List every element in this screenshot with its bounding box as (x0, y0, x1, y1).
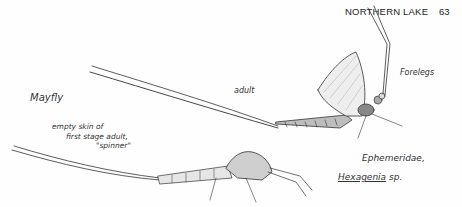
label-empty-skin-line-1: empty skin of (52, 122, 131, 132)
figure-title-mayfly: Mayfly (30, 92, 63, 103)
label-adult: adult (234, 86, 254, 95)
genus-name: Hexagenia (338, 172, 386, 182)
book-page: NORTHERN LAKE 63 (0, 0, 462, 207)
label-empty-skin-line-2: first stage adult, (66, 132, 131, 142)
label-empty-skin-line-3: "spinner" (96, 141, 131, 151)
label-empty-skin: empty skin of first stage adult, "spinne… (52, 122, 131, 151)
adult-mayfly-drawing (90, 6, 402, 138)
label-family: Ephemeridae, (362, 153, 425, 163)
species-abbr: sp. (389, 172, 402, 182)
label-forelegs: Forelegs (400, 68, 434, 77)
spinner-skin-drawing (12, 146, 312, 202)
label-genus-species: Hexagenia sp. (338, 172, 402, 182)
